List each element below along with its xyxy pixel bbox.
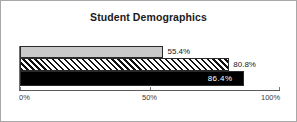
bar-series-2 (20, 58, 229, 71)
chart-container: Student Demographics 55.4% 80.8% 86.4% 0… (0, 0, 297, 122)
chart-title: Student Demographics (1, 11, 296, 23)
category-axis-line (19, 90, 280, 91)
axis-tick-label-0: 0% (19, 93, 30, 102)
axis-tick-label-2: 100% (261, 93, 280, 102)
bar-value-label-series-1: 55.4% (167, 47, 190, 56)
axis-tick-1 (150, 87, 151, 90)
axis-tick-label-1: 50% (142, 93, 157, 102)
axis-tick-0 (20, 87, 21, 90)
bar-value-label-series-2: 80.8% (233, 60, 256, 69)
axis-tick-2 (279, 87, 280, 90)
bar-value-label-series-3: 86.4% (208, 74, 233, 83)
bar-series-1 (20, 46, 163, 58)
